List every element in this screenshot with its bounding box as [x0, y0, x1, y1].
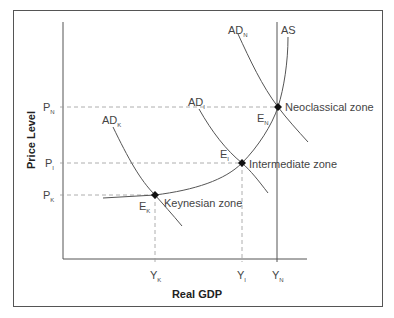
zone-intermediate: Intermediate zone [249, 158, 337, 170]
label-ek: EK [139, 200, 150, 214]
zone-keynesian: Keynesian zone [164, 197, 242, 209]
tick-yn: YN [272, 269, 284, 283]
ad-as-diagram: Price Level Real GDP PN PI PK YK YI YN A… [0, 0, 394, 318]
y-axis-title: Price Level [25, 111, 37, 169]
tick-pk: PK [43, 189, 54, 203]
tick-yk: YK [150, 269, 161, 283]
label-ad-i: ADI [188, 96, 205, 110]
tick-yi: YI [237, 269, 246, 283]
ad-n-curve [238, 34, 308, 142]
guide-lines [60, 107, 278, 262]
x-axis-title: Real GDP [172, 288, 222, 300]
tick-pn: PN [43, 101, 55, 115]
zone-neoclassical: Neoclassical zone [285, 101, 374, 113]
label-en: EN [257, 112, 269, 126]
label-ad-k: ADK [102, 114, 121, 128]
point-en [274, 103, 282, 111]
tick-pi: PI [45, 157, 54, 171]
label-ad-n: ADN [228, 24, 248, 38]
label-as: AS [281, 24, 296, 36]
